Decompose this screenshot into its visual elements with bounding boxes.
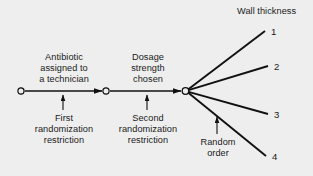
response-level-2: 2 [274,62,279,72]
fan-ray-2 [189,66,269,90]
response-level-1: 1 [271,27,276,37]
label-stage-two-top: Dosage strength chosen [109,52,187,86]
label-first-randomization-restriction: First randomization restriction [22,113,106,147]
label-second-randomization-restriction: Second randomization restriction [108,113,188,147]
label-random-order: Random order [190,137,246,159]
diagram-canvas [0,0,313,176]
label-wall-thickness: Wall thickness [237,6,309,17]
node-start [18,88,24,94]
response-level-4: 4 [272,152,277,162]
randomization-restriction-diagram: Antibiotic assigned to a technician Dosa… [0,0,313,176]
label-stage-one-top: Antibiotic assigned to a technician [22,52,106,86]
response-level-3: 3 [274,110,279,120]
node-middle [103,88,109,94]
fan-ray-1 [188,31,265,90]
